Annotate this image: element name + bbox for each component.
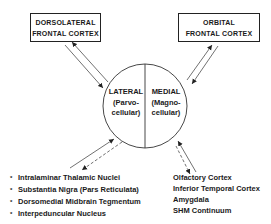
arrow-rightlist-to-medial (178, 141, 196, 172)
lateral-connections-list: *Intralaminar Thalamic Nuclei *Substanti… (10, 172, 141, 220)
arrow-dorsolateral-to-lateral (65, 45, 103, 88)
list-item: Olfactory Cortex (173, 172, 260, 183)
list-item: *Interpeduncular Nucleus (10, 208, 141, 220)
asterisk-icon: * (10, 197, 18, 208)
lateral-title: LATERAL (108, 87, 144, 98)
box-line: FRONTAL CORTEX (31, 28, 100, 39)
box-line: DORSOLATERAL (31, 17, 100, 28)
arrow-lateral-to-dorsolateral (72, 42, 108, 82)
medial-sub2: cellular) (148, 108, 184, 119)
box-line: ORBITAL (179, 17, 259, 28)
medial-division-label: MEDIAL (Magno- cellular) (148, 87, 184, 119)
lateral-division-label: LATERAL (Parvo- cellular) (108, 87, 144, 119)
list-item: *Substantia Nigra (Pars Reticulata) (10, 184, 141, 196)
lateral-sub1: (Parvo- (108, 98, 144, 109)
box-line: FRONTAL CORTEX (179, 28, 259, 39)
list-item: Amygdala (173, 194, 260, 205)
asterisk-icon: * (10, 185, 18, 196)
arrow-medial-to-orbital (187, 45, 212, 80)
arrow-leftlist-to-lateral (70, 139, 114, 168)
list-item: Inferior Temporal Cortex (173, 183, 260, 194)
medial-sub1: (Magno- (148, 98, 184, 109)
medial-title: MEDIAL (148, 87, 184, 98)
list-item: *Dorsomedial Midbrain Tegmentum (10, 196, 141, 208)
asterisk-icon: * (10, 173, 18, 184)
asterisk-icon: * (10, 209, 18, 220)
medial-connections-list: Olfactory Cortex Inferior Temporal Corte… (173, 172, 260, 216)
list-item: SHM Continuum (173, 205, 260, 216)
arrow-orbital-to-medial (192, 46, 218, 84)
lateral-sub2: cellular) (108, 108, 144, 119)
list-item: *Intralaminar Thalamic Nuclei (10, 172, 141, 184)
dorsolateral-frontal-cortex-box: DORSOLATERAL FRONTAL CORTEX (30, 13, 101, 42)
orbital-frontal-cortex-box: ORBITAL FRONTAL CORTEX (178, 13, 260, 42)
